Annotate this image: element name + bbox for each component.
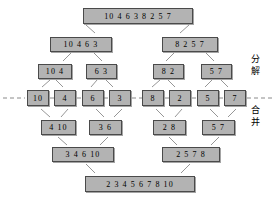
connector-line (86, 25, 95, 33)
array-node: 10 (27, 90, 49, 106)
connector-line (61, 109, 68, 117)
array-node: 10 4 6 3 (50, 37, 112, 52)
connector-line (58, 137, 67, 145)
connector-line (221, 80, 228, 87)
array-node: 8 2 5 7 (162, 37, 218, 52)
array-node: 7 (224, 90, 246, 106)
phase-label-merge: 合 并 (250, 105, 259, 126)
connector-line (228, 109, 236, 117)
array-node: 5 7 (201, 64, 232, 79)
connector-line (56, 80, 63, 87)
connector-line (86, 164, 95, 173)
array-node: 3 6 (89, 120, 122, 135)
merge-sort-diagram: 10 4 6 3 8 2 5 710 4 6 38 2 5 710 46 38 … (0, 0, 276, 204)
array-node: 6 3 (86, 64, 117, 79)
connector-line (152, 80, 160, 87)
array-node: 2 8 (153, 120, 186, 135)
connector-line (206, 53, 214, 61)
array-node: 2 3 4 5 6 7 8 10 (85, 176, 195, 192)
connector-line (169, 137, 177, 145)
array-node: 3 (109, 90, 131, 106)
connector-line (180, 25, 189, 33)
array-node: 8 (142, 90, 164, 106)
connector-line (63, 53, 71, 61)
connector-line (156, 109, 164, 117)
array-node: 4 10 (41, 120, 76, 135)
phase-label-decompose: 分 解 (250, 54, 259, 75)
connector-line (168, 80, 175, 87)
connector-line (175, 109, 182, 117)
connector-line (91, 80, 97, 87)
array-node: 5 (197, 90, 219, 106)
connector-line (41, 109, 50, 117)
connector-line (205, 80, 212, 87)
connector-line (210, 109, 218, 117)
array-node: 2 (169, 90, 191, 106)
array-node: 6 (82, 90, 104, 106)
connector-line (114, 109, 122, 117)
connector-line (166, 53, 174, 61)
connector-line (211, 137, 219, 145)
connector-line (100, 137, 108, 145)
array-node: 8 2 (153, 64, 184, 79)
array-node: 4 (54, 90, 76, 106)
connector-line (106, 80, 113, 87)
array-node: 10 4 (38, 64, 72, 79)
array-node: 5 7 (202, 120, 235, 135)
array-node: 2 5 7 8 (162, 147, 220, 162)
connector-line (42, 80, 50, 87)
connector-line (94, 53, 102, 61)
array-node: 10 4 6 3 8 2 5 7 (83, 8, 193, 24)
array-node: 3 4 6 10 (52, 147, 114, 162)
connector-line (181, 164, 190, 173)
connector-line (96, 109, 104, 117)
